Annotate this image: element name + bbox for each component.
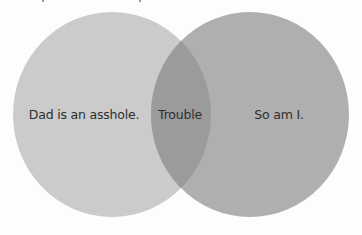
- left-set-label: Dad is an asshole.: [29, 109, 140, 122]
- venn-diagram: Dad is an asshole. Trouble So am I.: [0, 0, 362, 235]
- intersection-label: Trouble: [158, 109, 202, 122]
- right-set-label: So am I.: [254, 109, 303, 122]
